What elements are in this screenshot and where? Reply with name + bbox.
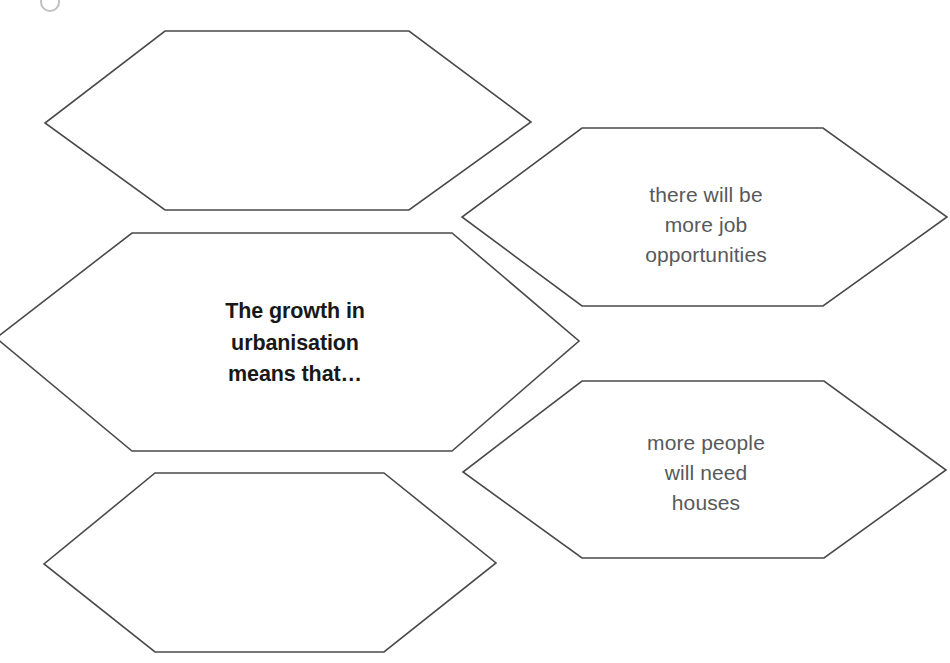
hexagon-blank-top-left[interactable] (45, 31, 531, 210)
hexagon-prompt-center[interactable] (0, 233, 579, 451)
hexagon-blank-bottom-left[interactable] (44, 473, 496, 652)
hexagon-answer-jobs[interactable] (462, 128, 947, 306)
hexagon-answer-houses[interactable] (463, 381, 946, 558)
worksheet-page: The growth in urbanisation means that… t… (0, 0, 950, 663)
hexagon-diagram (0, 0, 950, 663)
